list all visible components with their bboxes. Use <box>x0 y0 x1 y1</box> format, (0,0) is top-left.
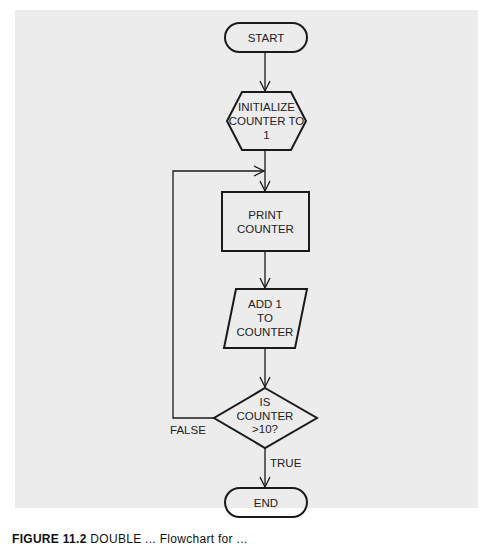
add-line-2: TO <box>222 311 308 325</box>
decision-line-3: >10? <box>225 423 305 437</box>
print-line-2: COUNTER <box>222 222 309 236</box>
start-label: START <box>225 31 307 45</box>
true-edge-label: TRUE <box>270 456 301 470</box>
decision-line-1: IS <box>225 396 305 410</box>
add-line-3: COUNTER <box>222 325 308 339</box>
initialize-line-1: INITIALIZE <box>227 100 306 114</box>
initialize-line-2: COUNTER TO <box>227 114 306 128</box>
print-label: PRINT COUNTER <box>222 208 309 236</box>
decision-line-2: COUNTER <box>225 410 305 424</box>
figure-number: FIGURE 11.2 <box>12 532 87 546</box>
add-label: ADD 1 TO COUNTER <box>222 297 308 339</box>
initialize-label: INITIALIZE COUNTER TO 1 <box>227 100 306 142</box>
figure-caption-text: DOUBLE ... Flowchart for ... <box>90 532 247 546</box>
decision-label: IS COUNTER >10? <box>225 396 305 437</box>
add-line-1: ADD 1 <box>222 297 308 311</box>
false-edge-label: FALSE <box>170 423 206 437</box>
end-label: END <box>225 496 307 510</box>
initialize-line-3: 1 <box>227 128 306 142</box>
print-line-1: PRINT <box>222 208 309 222</box>
figure-caption: FIGURE 11.2 DOUBLE ... Flowchart for ... <box>12 532 247 546</box>
